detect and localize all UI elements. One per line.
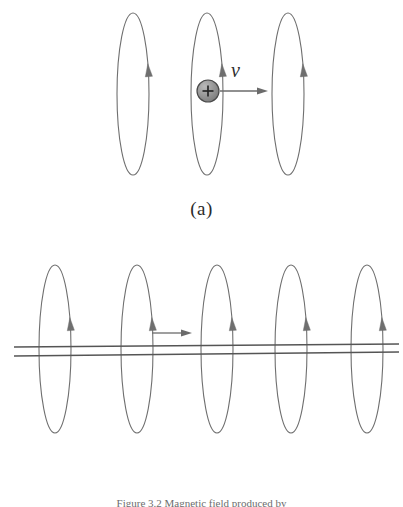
velocity-label: v <box>231 59 240 82</box>
field-line-arrowhead <box>300 64 307 77</box>
arrow-head <box>257 87 268 94</box>
wire-group <box>14 344 399 356</box>
field-line-arrowhead <box>145 64 152 77</box>
field-line-ellipse <box>351 265 383 433</box>
field-line-arrowhead <box>229 318 236 331</box>
field-line-b-0 <box>39 265 74 433</box>
field-line-arrowhead <box>303 318 310 331</box>
field-line-ellipse <box>121 265 153 433</box>
panel-b: I (b) <box>0 258 403 507</box>
velocity-arrow <box>220 87 268 94</box>
magnetic-field-figure: v (a) I (b) Figure 3.2 Magnetic field pr… <box>0 0 403 507</box>
field-line-b-1 <box>121 265 156 433</box>
arrow-head <box>181 329 192 336</box>
field-line-arrowhead <box>219 64 226 77</box>
field-line-group-b <box>39 265 386 433</box>
wire-bottom-line <box>14 352 399 356</box>
field-line-ellipse <box>201 265 233 433</box>
panel-a-label: (a) <box>0 198 403 220</box>
point-charge-group <box>197 80 219 102</box>
field-line-arrowhead <box>379 318 386 331</box>
field-line-ellipse <box>275 265 307 433</box>
field-line-ellipse <box>39 265 71 433</box>
current-arrow <box>152 329 192 336</box>
field-line-arrowhead <box>67 318 74 331</box>
field-line-a-0 <box>117 13 152 175</box>
figure-caption: Figure 3.2 Magnetic field produced by <box>0 497 403 507</box>
field-line-ellipse <box>117 13 149 175</box>
field-line-ellipse <box>272 13 304 175</box>
field-line-arrowhead <box>149 318 156 331</box>
field-line-b-4 <box>351 265 386 433</box>
panel-b-diagram <box>0 258 403 507</box>
current-arrow-group <box>152 329 192 336</box>
wire-top-line <box>14 344 399 347</box>
panel-a: v (a) <box>0 0 403 232</box>
field-line-a-2 <box>272 13 307 175</box>
field-line-b-3 <box>275 265 310 433</box>
field-line-b-2 <box>201 265 236 433</box>
velocity-arrow-group <box>220 87 268 94</box>
